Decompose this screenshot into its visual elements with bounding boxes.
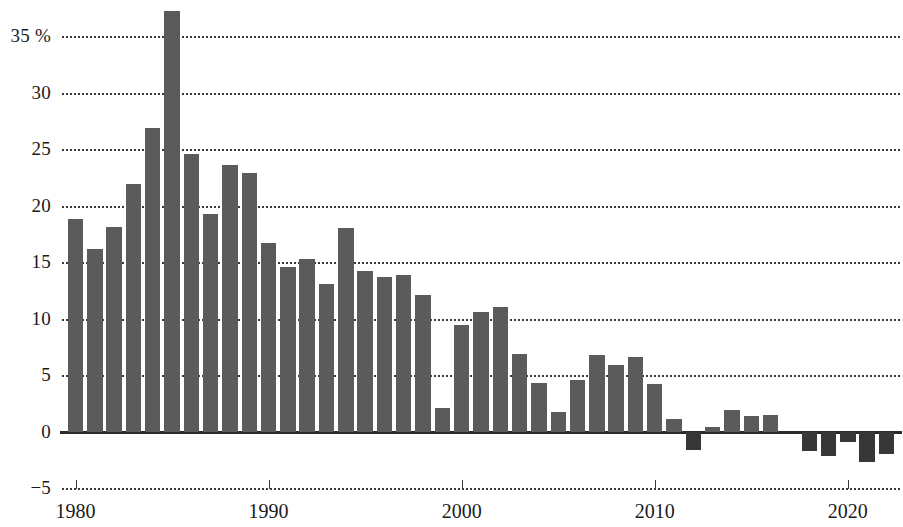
bar: [608, 365, 623, 432]
y-axis-tick-label: 30: [0, 83, 51, 102]
bar: [357, 271, 372, 431]
x-axis-tick-mark: [462, 480, 463, 489]
bar: [666, 419, 681, 431]
plot-area: 35 %302520151050−5 19801990200020102020: [62, 8, 900, 488]
y-axis-tick-label: 5: [0, 365, 51, 384]
bar: [242, 173, 257, 432]
y-axis-tick-label: 35 %: [0, 26, 51, 45]
y-axis-tick-label: 0: [0, 422, 51, 441]
bar: [628, 357, 643, 432]
bar: [145, 128, 160, 432]
bar: [763, 415, 778, 432]
bar: [840, 432, 855, 442]
bar: [512, 354, 527, 432]
bar: [126, 184, 141, 431]
bar: [570, 380, 585, 432]
bar: [531, 383, 546, 432]
x-axis-tick-mark: [269, 480, 270, 489]
bar: [396, 275, 411, 432]
bar: [377, 277, 392, 432]
bar: [203, 214, 218, 432]
y-axis-tick-label: 15: [0, 252, 51, 271]
bar: [589, 355, 604, 432]
x-axis-tick-label: 2010: [635, 500, 675, 522]
bar: [802, 432, 817, 451]
bar: [222, 165, 237, 432]
bar: [859, 432, 874, 462]
bar: [686, 432, 701, 450]
x-axis-tick-label: 1990: [249, 500, 289, 522]
bar: [454, 325, 469, 431]
bar: [68, 219, 83, 431]
bar: [319, 284, 334, 432]
y-axis-tick-label: 20: [0, 196, 51, 215]
bar: [299, 259, 314, 432]
bar: [435, 408, 450, 432]
x-axis-tick-label: 1980: [56, 500, 96, 522]
bar: [724, 410, 739, 431]
bar: [164, 11, 179, 431]
bar: [879, 432, 894, 455]
bar: [338, 228, 353, 431]
bar: [415, 295, 430, 432]
x-axis-tick-mark: [655, 480, 656, 489]
y-axis-tick-label: 25: [0, 139, 51, 158]
gridline: [62, 488, 900, 490]
bar: [106, 227, 121, 431]
x-axis-tick-label: 2020: [828, 500, 868, 522]
y-axis-tick-label: 10: [0, 309, 51, 328]
bar: [280, 267, 295, 432]
bar: [821, 432, 836, 457]
bar: [705, 427, 720, 432]
x-axis-tick-label: 2000: [442, 500, 482, 522]
bars-layer: [62, 8, 900, 488]
bar: [493, 307, 508, 431]
bar: [87, 249, 102, 432]
bar: [744, 416, 759, 432]
bar: [647, 384, 662, 431]
bar: [261, 243, 276, 432]
bar: [184, 154, 199, 432]
x-axis-tick-mark: [848, 480, 849, 489]
bar-chart: 35 %302520151050−5 19801990200020102020: [0, 0, 903, 527]
bar: [473, 312, 488, 432]
bar: [551, 412, 566, 431]
y-axis-tick-label: −5: [0, 478, 51, 497]
x-axis-tick-mark: [76, 480, 77, 489]
